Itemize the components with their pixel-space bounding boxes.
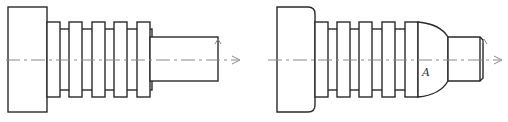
left-figure: [6, 7, 240, 112]
right-figure: A: [268, 7, 502, 112]
surface-label: A: [421, 66, 430, 79]
technical-drawing: A: [0, 0, 508, 122]
end-shaft: [150, 37, 218, 81]
end-shaft-chamfered: [448, 37, 483, 81]
